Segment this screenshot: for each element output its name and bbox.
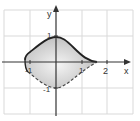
axes [2,8,128,116]
x-tick-label-neg1: -1 [25,66,33,75]
graph-svg: y x -1 1 2 1 -1 [0,0,140,121]
x-tick-label-1: 1 [79,66,84,75]
y-tick-label-neg1: -1 [43,85,51,94]
x-axis-arrow-icon [124,59,131,65]
x-axis-label: x [124,66,129,76]
y-tick-label-1: 1 [47,31,52,40]
y-axis-arrow-icon [53,5,59,12]
graph-figure: y x -1 1 2 1 -1 [0,0,140,121]
x-tick-label-2: 2 [103,66,108,76]
y-axis-label: y [47,9,52,19]
